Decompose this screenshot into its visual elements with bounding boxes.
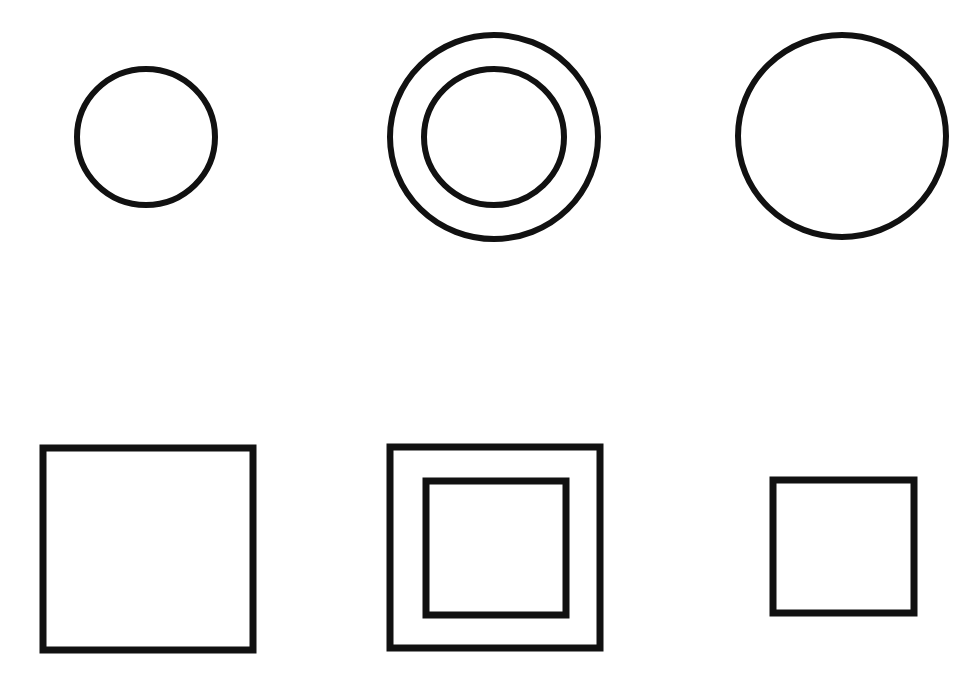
single-small-square-outline [773, 480, 914, 613]
single-small-square [773, 480, 914, 613]
inner-square [426, 481, 566, 615]
shapes-diagram [0, 0, 972, 683]
single-large-square [43, 448, 253, 650]
single-small-circle-outline [77, 69, 215, 205]
square-row [43, 447, 914, 650]
inner-circle [424, 69, 564, 205]
double-circle [390, 35, 598, 239]
single-large-circle [738, 35, 946, 237]
single-small-circle [77, 69, 215, 205]
circle-row [77, 35, 946, 239]
single-large-square-outline [43, 448, 253, 650]
single-large-circle-outline [738, 35, 946, 237]
double-square [390, 447, 600, 648]
